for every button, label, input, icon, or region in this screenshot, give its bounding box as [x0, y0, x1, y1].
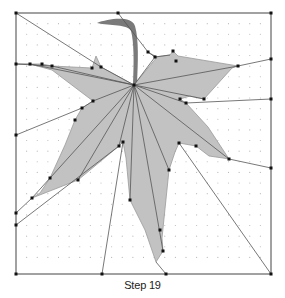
grid-dot — [26, 44, 27, 45]
grid-dot — [111, 161, 112, 162]
grid-dot — [37, 246, 38, 247]
grid-dot — [58, 214, 59, 215]
grid-dot — [58, 129, 59, 130]
grid-dot — [207, 214, 208, 215]
grid-dot — [79, 55, 80, 56]
grid-dot — [47, 44, 48, 45]
grid-dot — [164, 236, 165, 237]
grid-dot — [47, 236, 48, 237]
grid-dot — [249, 214, 250, 215]
grid-dot — [122, 161, 123, 162]
grid-dot — [79, 204, 80, 205]
grid-dot — [164, 44, 165, 45]
grid-dot — [228, 246, 229, 247]
grid-dot — [122, 44, 123, 45]
grid-dot — [90, 193, 91, 194]
grid-dot — [228, 34, 229, 35]
grid-dot — [122, 236, 123, 237]
grid-dot — [37, 161, 38, 162]
grid-dot — [196, 214, 197, 215]
grid-dot — [100, 34, 101, 35]
grid-dot — [217, 182, 218, 183]
grid-dot — [47, 129, 48, 130]
grid-dot — [207, 236, 208, 237]
grid-dot — [175, 204, 176, 205]
grid-dot — [37, 182, 38, 183]
grid-dot — [37, 129, 38, 130]
grid-dot — [260, 236, 261, 237]
grid-dot — [260, 151, 261, 152]
grid-dot — [79, 97, 80, 98]
grid-dot — [26, 161, 27, 162]
grid-dot — [26, 151, 27, 152]
grid-dot — [228, 172, 229, 173]
grid-dot — [69, 225, 70, 226]
grid-dot — [100, 193, 101, 194]
grid-dot — [79, 225, 80, 226]
grid-dot — [217, 214, 218, 215]
grid-dot — [185, 246, 186, 247]
grid-dot — [122, 225, 123, 226]
grid-dot — [69, 87, 70, 88]
grid-dot — [79, 214, 80, 215]
grid-dot — [58, 55, 59, 56]
grid-dot — [58, 97, 59, 98]
grid-dot — [239, 193, 240, 194]
grid-dot — [185, 55, 186, 56]
vertex-point — [203, 98, 206, 101]
grid-dot — [132, 236, 133, 237]
reference-line — [156, 262, 166, 274]
vertex-point — [15, 224, 18, 227]
grid-dot — [58, 204, 59, 205]
reference-line — [179, 143, 271, 274]
grid-dot — [217, 225, 218, 226]
grid-dot — [122, 34, 123, 35]
grid-dot — [111, 55, 112, 56]
grid-dot — [69, 236, 70, 237]
grid-dot — [26, 66, 27, 67]
grid-dot — [228, 44, 229, 45]
grid-dot — [58, 34, 59, 35]
vertex-point — [178, 142, 181, 145]
grid-dot — [175, 214, 176, 215]
grid-dot — [37, 236, 38, 237]
vertex-point — [117, 12, 120, 15]
grid-dot — [111, 225, 112, 226]
vertex-point — [29, 63, 32, 66]
grid-dot — [37, 140, 38, 141]
grid-dot — [37, 257, 38, 258]
grid-dot — [260, 140, 261, 141]
grid-dot — [111, 257, 112, 258]
grid-dot — [207, 34, 208, 35]
grid-dot — [185, 23, 186, 24]
grid-dot — [207, 193, 208, 194]
grid-dot — [207, 108, 208, 109]
vertex-point — [77, 179, 80, 182]
grid-dot — [164, 23, 165, 24]
grid-dot — [143, 66, 144, 67]
grid-dot — [196, 225, 197, 226]
grid-dot — [228, 119, 229, 120]
vertex-point — [118, 145, 121, 148]
grid-dot — [239, 182, 240, 183]
vertex-point — [74, 119, 77, 122]
vertex-point — [172, 50, 175, 53]
grid-dot — [132, 214, 133, 215]
grid-dot — [111, 204, 112, 205]
grid-dot — [239, 236, 240, 237]
grid-dot — [26, 214, 27, 215]
grid-dot — [260, 214, 261, 215]
vertex-point — [195, 145, 198, 148]
grid-dot — [260, 161, 261, 162]
grid-dot — [143, 23, 144, 24]
grid-dot — [175, 225, 176, 226]
grid-dot — [260, 55, 261, 56]
grid-dot — [217, 236, 218, 237]
vertex-point — [31, 197, 34, 200]
grid-dot — [260, 23, 261, 24]
grid-dot — [58, 257, 59, 258]
grid-dot — [26, 193, 27, 194]
grid-dot — [37, 119, 38, 120]
grid-dot — [122, 246, 123, 247]
grid-dot — [100, 214, 101, 215]
